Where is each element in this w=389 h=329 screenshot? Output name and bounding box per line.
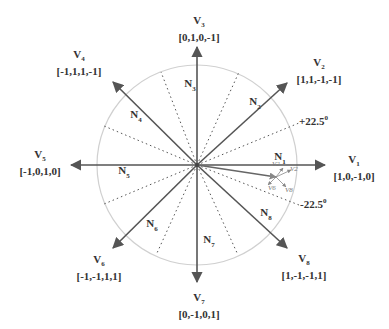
v3-name: V — [193, 14, 201, 26]
sector-n7: N7 — [203, 233, 214, 248]
n5-sub: 5 — [126, 172, 130, 180]
v7-name: V — [193, 291, 201, 303]
n8-sub: 8 — [268, 214, 272, 222]
n7-name: N — [203, 233, 211, 245]
n3-sub: 3 — [192, 85, 196, 93]
component-label-v2b: V2 — [290, 165, 298, 173]
vector-v4 — [113, 82, 197, 165]
component-label-v2a: V2 — [272, 160, 280, 168]
n3-name: N — [184, 77, 192, 89]
label-v4: V4 [-1,1,1,-1] — [57, 48, 102, 77]
v7-code: [0,-1,0,1] — [178, 308, 219, 320]
v4-sub: 4 — [81, 55, 85, 63]
n2-name: N — [249, 95, 257, 107]
sector-n6: N6 — [146, 217, 157, 232]
v6-name: V — [93, 253, 101, 265]
label-v8: V8 [1,-1,-1,1] — [282, 252, 327, 281]
label-v3: V3 [0,1,0,-1] — [178, 14, 219, 43]
v2-sub: 2 — [321, 63, 325, 71]
v1-code: [1,0,-1,0] — [333, 170, 374, 182]
n4-name: N — [130, 108, 138, 120]
sector-n3: N3 — [184, 77, 195, 92]
divider-67-5 — [197, 72, 239, 165]
v6-code: [-1,-1,1,1] — [77, 270, 122, 282]
n7-sub: 7 — [211, 241, 215, 249]
angle-minus-text: -22.5 — [300, 198, 323, 210]
label-v6: V6 [-1,-1,1,1] — [77, 253, 122, 282]
n5-name: N — [118, 164, 126, 176]
v3-code: [0,1,0,-1] — [178, 31, 219, 43]
angle-minus-unit: 0 — [323, 197, 327, 205]
v6-sub: 6 — [101, 260, 105, 268]
angle-plus-unit: 0 — [325, 114, 329, 122]
n2-sub: 2 — [257, 103, 261, 111]
n6-sub: 6 — [154, 225, 158, 233]
v7-sub: 7 — [201, 298, 205, 306]
component-label-v8: V8 — [285, 186, 293, 194]
angle-minus-22-5: -22.50 — [300, 197, 326, 210]
label-v1: V1 [1,0,-1,0] — [333, 153, 374, 182]
origin-point — [195, 163, 199, 167]
v1-name: V — [348, 153, 356, 165]
label-v5: V5 [-1,0,1,0] — [19, 148, 60, 177]
sector-n5: N5 — [118, 164, 129, 179]
v2-name: V — [313, 56, 321, 68]
v5-code: [-1,0,1,0] — [19, 165, 60, 177]
n6-name: N — [146, 217, 154, 229]
v5-sub: 5 — [42, 155, 46, 163]
sector-n8: N8 — [260, 206, 271, 221]
v8-code: [1,-1,-1,1] — [282, 269, 327, 281]
sector-n4: N4 — [130, 108, 141, 123]
n1-sub: 1 — [282, 158, 286, 166]
v3-sub: 3 — [201, 21, 205, 29]
angle-plus-22-5: +22.50 — [299, 114, 328, 127]
v4-name: V — [73, 48, 81, 60]
v5-name: V — [34, 148, 42, 160]
divider-247-5 — [157, 165, 197, 253]
n4-sub: 4 — [138, 116, 142, 124]
v2-code: [1,1,-1,-1] — [297, 73, 342, 85]
n8-name: N — [260, 206, 268, 218]
v8-sub: 8 — [306, 259, 310, 267]
label-v7: V7 [0,-1,0,1] — [178, 291, 219, 320]
v8-name: V — [298, 252, 306, 264]
component-label-v6: V6 — [268, 184, 276, 192]
v4-code: [-1,1,1,-1] — [57, 65, 102, 77]
label-v2: V2 [1,1,-1,-1] — [297, 56, 342, 85]
v1-sub: 1 — [356, 160, 360, 168]
sector-n2: N2 — [249, 95, 260, 110]
divider-157-5 — [104, 126, 197, 165]
angle-plus-text: +22.5 — [299, 115, 325, 127]
